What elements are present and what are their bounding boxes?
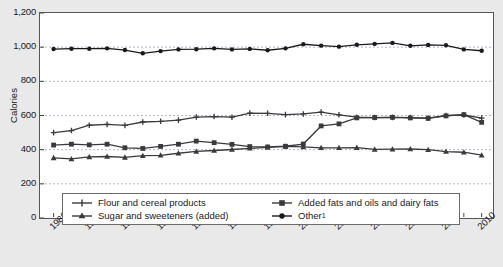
legend-item-other: Other1 — [271, 210, 326, 221]
legend-label: Added fats and oils and dairy fats — [298, 197, 438, 208]
legend-item-sugar-and-sweeteners: Sugar and sweeteners (added) — [71, 210, 228, 221]
legend-label: Sugar and sweeteners (added) — [98, 210, 228, 221]
legend-label: Flour and cereal products — [98, 197, 206, 208]
legend-marker-plus — [71, 198, 93, 208]
legend-label: Other — [298, 210, 322, 221]
legend-footnote-marker: 1 — [322, 212, 326, 219]
legend-marker-square — [271, 198, 293, 208]
x-axis-tick-labels: 1986198819901992199419961998200020022004… — [0, 0, 503, 267]
chart-legend: Flour and cereal products Sugar and swee… — [62, 193, 460, 225]
legend-marker-triangle — [71, 211, 93, 221]
legend-marker-dot — [271, 211, 293, 221]
x-tick-label: 2010 — [475, 210, 497, 232]
legend-item-flour-and-cereal-products: Flour and cereal products — [71, 197, 206, 208]
chart-figure: 02004006008001,0001,200 Calories 1986198… — [0, 0, 503, 267]
legend-item-added-fats-and-oils: Added fats and oils and dairy fats — [271, 197, 438, 208]
